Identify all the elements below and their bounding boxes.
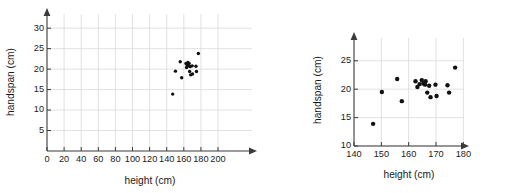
left-x-tick-labels: 020406080100120140160180200 — [44, 154, 225, 164]
left-x-tick-label: 80 — [110, 154, 120, 164]
scatter-panel-right: 10152025 140150160170180 height (cm) han… — [259, 0, 518, 193]
left-y-tick-label: 30 — [34, 23, 44, 33]
right-x-axis-arrow-icon — [461, 143, 469, 150]
left-y-tick-label: 20 — [34, 64, 44, 74]
left-x-tick-label: 200 — [210, 154, 225, 164]
right-y-tick-label: 20 — [341, 84, 351, 94]
right-data-point — [447, 90, 451, 94]
right-plot-svg: 10152025 140150160170180 height (cm) han… — [259, 0, 518, 193]
right-data-point — [371, 122, 375, 126]
right-x-tick-label: 140 — [346, 149, 361, 159]
left-data-point — [174, 69, 177, 72]
right-data-point — [413, 79, 417, 83]
left-y-tick-label: 5 — [39, 125, 44, 135]
right-data-point — [425, 90, 429, 94]
right-data-point — [434, 94, 438, 98]
left-data-point — [197, 52, 200, 55]
left-data-point — [191, 64, 194, 67]
left-data-point — [188, 70, 191, 73]
right-x-axis-title: height (cm) — [384, 169, 435, 180]
right-data-point — [380, 90, 384, 94]
left-x-tick-label: 100 — [125, 154, 140, 164]
left-y-tick-labels: 51015202530 — [34, 23, 44, 135]
left-data-point — [191, 72, 194, 75]
left-x-tick-label: 140 — [159, 154, 174, 164]
left-data-point — [171, 92, 174, 95]
right-x-tick-labels: 140150160170180 — [346, 149, 471, 159]
right-x-tick-label: 150 — [374, 149, 389, 159]
right-data-point — [428, 95, 432, 99]
right-y-tick-labels: 10152025 — [341, 55, 351, 150]
left-x-tick-label: 60 — [93, 154, 103, 164]
right-y-tick-label: 25 — [341, 55, 351, 65]
right-data-point — [445, 83, 449, 87]
right-data-point — [423, 79, 427, 83]
right-data-point — [433, 82, 437, 86]
left-data-point — [179, 60, 182, 63]
right-x-tick-label: 170 — [428, 149, 443, 159]
left-gridlines — [47, 14, 252, 151]
right-data-points — [371, 65, 457, 126]
left-x-tick-label: 180 — [193, 154, 208, 164]
left-data-point — [194, 65, 197, 68]
right-data-point — [400, 99, 404, 103]
right-x-tick-label: 180 — [456, 149, 471, 159]
left-plot-svg: 51015202530 020406080100120140160180200 … — [0, 0, 259, 193]
right-y-axis-title: handspan (cm) — [312, 56, 323, 124]
right-x-tick-label: 160 — [401, 149, 416, 159]
left-x-axis-title: height (cm) — [125, 175, 176, 186]
right-data-point — [395, 77, 399, 81]
left-y-tick-label: 10 — [34, 104, 44, 114]
left-data-point — [187, 62, 190, 65]
left-y-tick-label: 25 — [34, 43, 44, 53]
left-data-point — [180, 76, 183, 79]
left-x-tick-label: 0 — [44, 154, 49, 164]
left-x-tick-label: 40 — [76, 154, 86, 164]
right-data-point — [453, 65, 457, 69]
left-x-tick-label: 20 — [59, 154, 69, 164]
right-y-tick-label: 15 — [341, 112, 351, 122]
right-data-point — [427, 84, 431, 88]
left-y-axis-title: handspan (cm) — [5, 48, 16, 116]
right-y-axis-arrow-icon — [351, 32, 358, 40]
left-data-point — [195, 70, 198, 73]
left-x-tick-label: 120 — [142, 154, 157, 164]
left-y-axis-arrow-icon — [44, 8, 51, 16]
left-x-axis-arrow-icon — [249, 148, 257, 155]
right-data-point — [417, 82, 421, 86]
scatter-panel-left: 51015202530 020406080100120140160180200 … — [0, 0, 259, 193]
left-y-tick-label: 15 — [34, 84, 44, 94]
scatterplot-figure: 51015202530 020406080100120140160180200 … — [0, 0, 518, 193]
left-x-tick-label: 160 — [176, 154, 191, 164]
